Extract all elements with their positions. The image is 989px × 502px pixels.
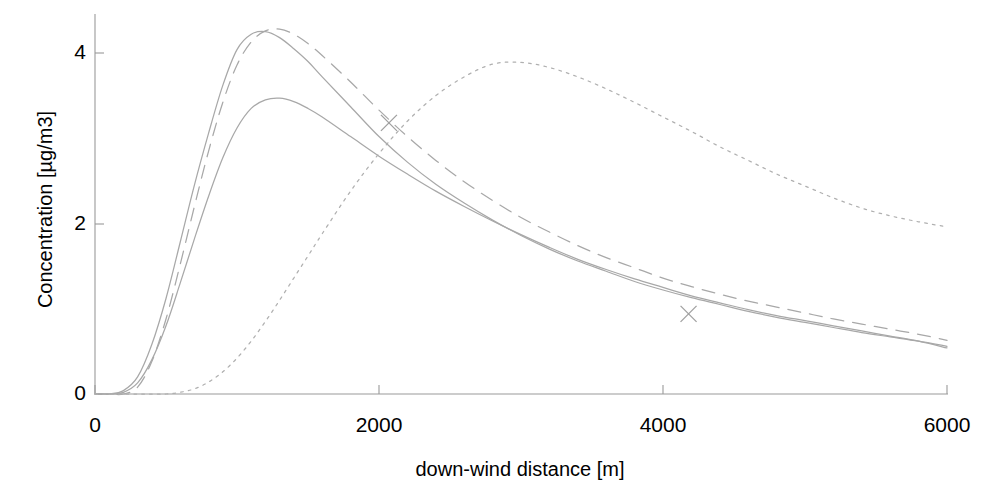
x-tick-label-2000: 2000	[339, 413, 419, 437]
x-marker-marker-2	[681, 306, 697, 322]
y-tick-label-0: 0	[62, 381, 86, 405]
data-markers	[381, 115, 697, 322]
y-tick-label-4: 4	[62, 40, 86, 64]
curve-solid-lower	[95, 98, 947, 394]
curve-solid-upper	[95, 31, 947, 394]
x-axis-ticks	[95, 385, 947, 394]
x-tick-label-0: 0	[55, 413, 135, 437]
y-tick-label-2: 2	[62, 211, 86, 235]
x-marker-marker-1	[381, 115, 397, 131]
y-axis-ticks	[95, 53, 104, 394]
curve-dotted	[95, 62, 947, 394]
plot-area	[0, 0, 989, 502]
x-axis-title: down-wind distance [m]	[290, 458, 750, 481]
x-tick-label-4000: 4000	[623, 413, 703, 437]
data-curves	[95, 29, 947, 395]
chart-figure: 4 2 0 0 2000 4000 6000 down-wind distanc…	[0, 0, 989, 502]
y-axis-title: Concentration [µg/m3]	[34, 60, 57, 360]
x-tick-label-6000: 6000	[907, 413, 987, 437]
